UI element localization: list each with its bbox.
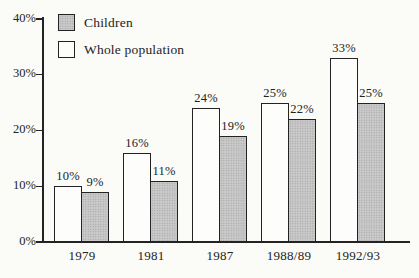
y-tick-label-0: 0% <box>0 234 36 249</box>
children-value-label-1981: 11% <box>138 164 190 179</box>
children-legend-swatch <box>58 14 75 31</box>
children-legend-label: Children <box>84 15 133 31</box>
children-bar-1981 <box>150 181 178 242</box>
x-axis-label-1992-93: 1992/93 <box>323 248 393 264</box>
y-tick-mark-30 <box>36 74 43 75</box>
children-bar-1979 <box>81 192 109 242</box>
y-tick-mark-20 <box>36 130 43 131</box>
y-tick-mark-0 <box>36 241 43 242</box>
legend-entry-whole-population: Whole population <box>58 41 184 58</box>
whole-population-bar-1988-89 <box>261 103 289 242</box>
y-tick-mark-10 <box>36 186 43 187</box>
x-axis-label-1981: 1981 <box>116 248 186 264</box>
x-axis-label-1979: 1979 <box>47 248 117 264</box>
children-value-label-1979: 9% <box>69 175 121 190</box>
x-axis-label-1987: 1987 <box>185 248 255 264</box>
children-value-label-1992-93: 25% <box>345 86 397 101</box>
whole-population-value-label-1992-93: 33% <box>318 41 370 56</box>
y-tick-label-10: 10% <box>0 178 36 193</box>
whole-population-value-label-1987: 24% <box>180 91 232 106</box>
children-bar-1992-93 <box>357 103 385 242</box>
children-value-label-1988-89: 22% <box>276 102 328 117</box>
children-value-label-1987: 19% <box>207 119 259 134</box>
y-tick-label-20: 20% <box>0 122 36 137</box>
bar-chart-figure: 0%10%20%30%40% 10%9%16%11%24%19%25%22%33… <box>0 0 419 278</box>
y-tick-label-30: 30% <box>0 66 36 81</box>
whole-population-legend-swatch <box>58 41 75 58</box>
y-tick-label-40: 40% <box>0 11 36 26</box>
x-axis-label-1988-89: 1988/89 <box>254 248 324 264</box>
legend: Children Whole population <box>58 14 184 68</box>
y-tick-mark-40 <box>36 18 43 19</box>
children-bar-1987 <box>219 136 247 242</box>
whole-population-bar-1979 <box>54 186 82 242</box>
whole-population-legend-label: Whole population <box>84 42 184 58</box>
whole-population-value-label-1981: 16% <box>111 136 163 151</box>
children-bar-1988-89 <box>288 119 316 242</box>
legend-entry-children: Children <box>58 14 184 31</box>
whole-population-value-label-1988-89: 25% <box>249 86 301 101</box>
